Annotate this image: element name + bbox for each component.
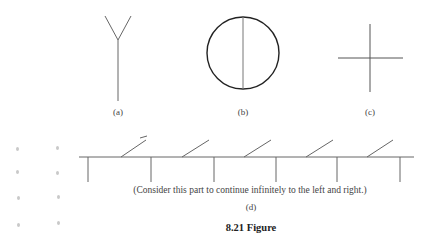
- panel-a-y-shape: [105, 16, 131, 101]
- panel-c-label: (c): [365, 107, 375, 117]
- figure-caption: 8.21 Figure: [226, 222, 277, 233]
- scan-artifact-marks: [10, 143, 70, 243]
- panel-d-infinite-line: [79, 136, 414, 182]
- panel-b-label: (b): [238, 107, 249, 117]
- panel-d-note: (Consider this part to continue infinite…: [133, 185, 367, 195]
- panel-d-label: (d): [246, 202, 257, 212]
- panel-c-cross: [338, 24, 403, 92]
- panel-b-circle: [207, 17, 279, 89]
- panel-a-label: (a): [113, 107, 123, 117]
